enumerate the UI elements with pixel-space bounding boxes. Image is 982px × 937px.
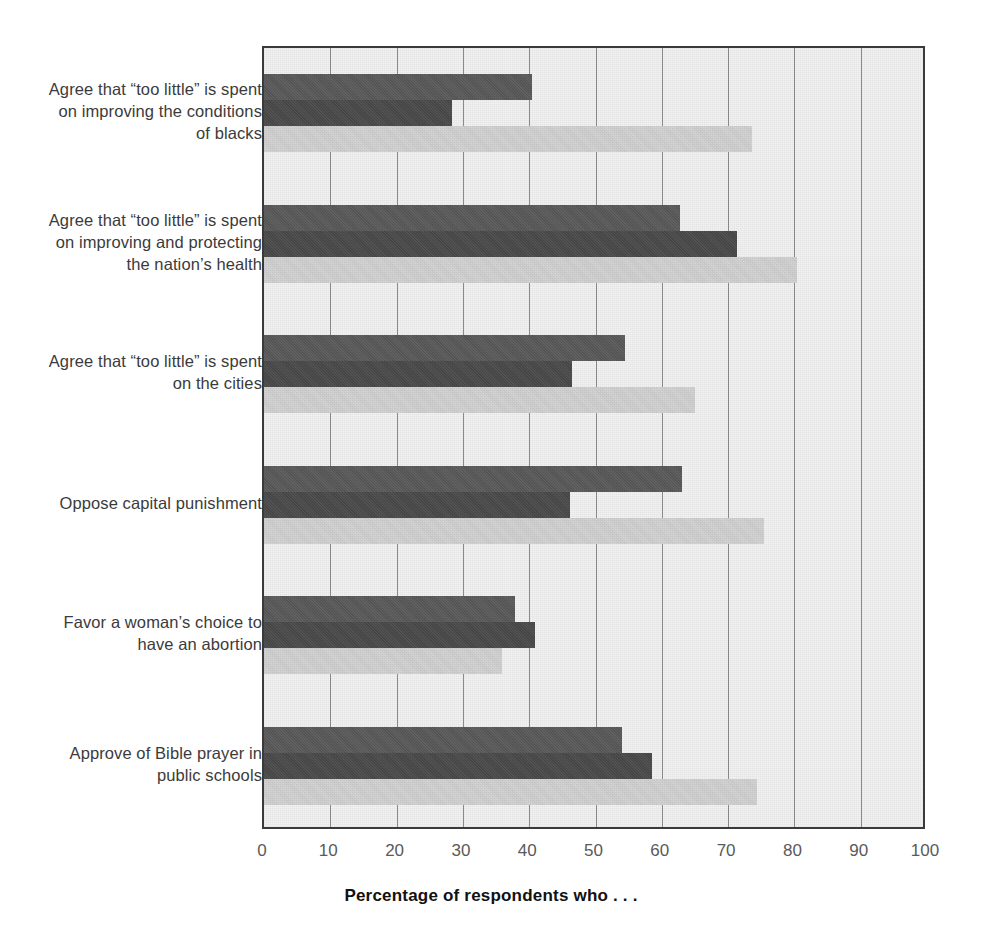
category-label: Agree that “too little” is spenton impro… — [38, 209, 262, 275]
bar-texture — [264, 126, 752, 152]
gridline-90 — [861, 48, 862, 827]
bar-whites — [264, 231, 737, 257]
bar-others — [264, 335, 625, 361]
x-tick-20: 20 — [365, 841, 425, 861]
x-tick-80: 80 — [762, 841, 822, 861]
category-label-line: Agree that “too little” is spent — [38, 78, 262, 100]
bar-others — [264, 727, 622, 753]
plot-inner — [264, 48, 923, 827]
category-label: Oppose capital punishment — [38, 492, 262, 514]
bar-african — [264, 126, 752, 152]
x-tick-100: 100 — [895, 841, 955, 861]
bar-whites — [264, 492, 570, 518]
bar-texture — [264, 257, 797, 283]
plot-area: Others Whites African Americans — [262, 46, 925, 829]
bar-african — [264, 257, 797, 283]
x-tick-60: 60 — [630, 841, 690, 861]
x-tick-0: 0 — [232, 841, 292, 861]
category-label: Agree that “too little” is spenton the c… — [38, 350, 262, 394]
gridline-40 — [529, 48, 530, 827]
x-tick-50: 50 — [564, 841, 624, 861]
category-label-line: on improving the conditions — [38, 100, 262, 122]
bar-texture — [264, 622, 535, 648]
bar-others — [264, 596, 515, 622]
category-label-line: on improving and protecting — [38, 231, 262, 253]
category-label-line: Favor a woman’s choice to — [38, 611, 262, 633]
gridline-80 — [794, 48, 795, 827]
x-tick-70: 70 — [696, 841, 756, 861]
bar-african — [264, 387, 695, 413]
category-label-line: have an abortion — [38, 633, 262, 655]
bar-texture — [264, 205, 680, 231]
bar-texture — [264, 727, 622, 753]
x-axis-title: Percentage of respondents who . . . — [0, 886, 982, 906]
bar-group — [264, 335, 923, 413]
bar-whites — [264, 100, 452, 126]
bar-group — [264, 466, 923, 544]
bar-texture — [264, 361, 572, 387]
bar-texture — [264, 779, 757, 805]
bar-texture — [264, 518, 764, 544]
bar-texture — [264, 231, 737, 257]
category-label: Approve of Bible prayer inpublic schools — [38, 742, 262, 786]
bar-others — [264, 205, 680, 231]
category-label-line: Approve of Bible prayer in — [38, 742, 262, 764]
category-label: Agree that “too little” is spenton impro… — [38, 78, 262, 144]
x-tick-90: 90 — [829, 841, 889, 861]
bar-texture — [264, 753, 652, 779]
bar-texture — [264, 648, 502, 674]
bar-whites — [264, 622, 535, 648]
bar-african — [264, 648, 502, 674]
bar-others — [264, 466, 682, 492]
bar-african — [264, 779, 757, 805]
bar-whites — [264, 361, 572, 387]
category-label: Favor a woman’s choice tohave an abortio… — [38, 611, 262, 655]
bar-group — [264, 74, 923, 152]
bar-african — [264, 518, 764, 544]
gridline-30 — [463, 48, 464, 827]
category-label-line: Agree that “too little” is spent — [38, 209, 262, 231]
bar-group — [264, 205, 923, 283]
gridline-50 — [596, 48, 597, 827]
x-tick-30: 30 — [431, 841, 491, 861]
bar-texture — [264, 74, 532, 100]
category-label-line: the nation’s health — [38, 253, 262, 275]
bar-texture — [264, 596, 515, 622]
x-tick-10: 10 — [298, 841, 358, 861]
category-label-line: of blacks — [38, 122, 262, 144]
category-label-line: public schools — [38, 764, 262, 786]
bar-group — [264, 596, 923, 674]
bar-texture — [264, 387, 695, 413]
bar-chart: Others Whites African Americans Agree th… — [0, 0, 982, 937]
gridline-70 — [728, 48, 729, 827]
bar-texture — [264, 492, 570, 518]
bar-others — [264, 74, 532, 100]
category-label-line: Agree that “too little” is spent — [38, 350, 262, 372]
category-label-line: on the cities — [38, 372, 262, 394]
category-label-line: Oppose capital punishment — [38, 492, 262, 514]
bar-texture — [264, 466, 682, 492]
gridline-10 — [330, 48, 331, 827]
gridline-20 — [397, 48, 398, 827]
x-tick-40: 40 — [497, 841, 557, 861]
bar-texture — [264, 335, 625, 361]
gridline-60 — [662, 48, 663, 827]
bar-group — [264, 727, 923, 805]
bar-texture — [264, 100, 452, 126]
bar-whites — [264, 753, 652, 779]
